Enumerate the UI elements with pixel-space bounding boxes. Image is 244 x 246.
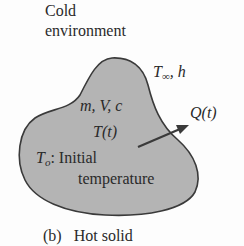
ambient-label: T∞, h: [153, 63, 186, 82]
temperature-label: T(t): [93, 123, 117, 141]
initial-temperature-label-line2: temperature: [78, 170, 154, 188]
environment-label-line2: environment: [45, 22, 126, 39]
heat-flow-label: Q(t): [190, 104, 217, 122]
environment-label-line1: Cold: [45, 2, 76, 19]
properties-label: m, V, c: [80, 97, 122, 114]
caption: (b)Hot solid: [43, 227, 133, 245]
hot-solid-diagram: Cold environment T∞, h m, V, c Q(t) T(t)…: [0, 0, 244, 246]
diagram-canvas: Cold environment T∞, h m, V, c Q(t) T(t)…: [0, 0, 244, 246]
